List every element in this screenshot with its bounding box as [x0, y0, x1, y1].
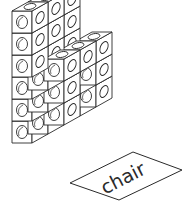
label-card: chair [70, 152, 182, 200]
chair-cubes-illustration: chair [0, 0, 193, 202]
connecting-cubes-chair [12, 0, 112, 143]
